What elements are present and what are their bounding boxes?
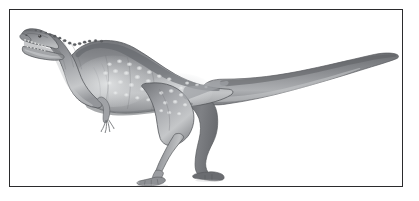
figure-subject-label: Abelisaurid theropod dinosaur in left-fa… [0, 0, 1, 1]
tail-group [200, 53, 398, 105]
eye [38, 35, 41, 38]
dinosaur-illustration [10, 10, 402, 186]
figure-root: Abelisaurid theropod dinosaur in left-fa… [0, 0, 419, 201]
eye-glint [39, 35, 40, 36]
nostril [25, 35, 27, 36]
head-group [20, 29, 64, 60]
ground-shadow-far [195, 179, 221, 181]
illustration-frame [9, 9, 403, 187]
